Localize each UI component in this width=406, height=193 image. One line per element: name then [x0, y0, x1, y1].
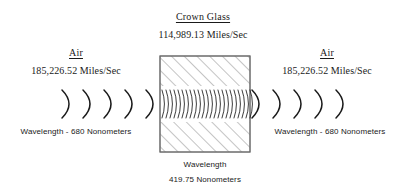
air-left-speed: 185,226.52 Miles/Sec [31, 66, 121, 76]
wavefronts-left [62, 90, 153, 118]
glass-wavelength-label: Wavelength [184, 161, 227, 169]
glass-wavelength-value: 419.75 Nonometers [169, 176, 241, 184]
wavefronts-right [252, 90, 343, 118]
air-right-speed: 185,226.52 Miles/Sec [282, 66, 372, 76]
air-left-title: Air [69, 48, 83, 58]
air-right-title: Air [320, 48, 334, 58]
crown-glass-title: Crown Glass [176, 12, 230, 22]
air-left-wavelength: Wavelength - 680 Nonometers [21, 128, 132, 136]
crown-glass-speed: 114,989.13 Miles/Sec [158, 30, 247, 40]
air-right-wavelength: Wavelength - 680 Nonometers [275, 128, 386, 136]
